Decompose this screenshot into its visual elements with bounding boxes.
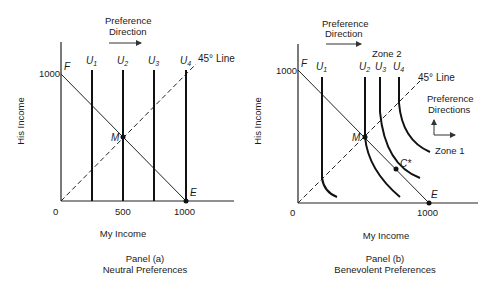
label-u3: U3 — [375, 61, 386, 73]
label-u4: U4 — [180, 55, 191, 67]
point-e — [427, 201, 432, 206]
diagram-canvas: Preference Direction U1 U2 U3 U4 45° Lin… — [0, 0, 489, 285]
point-c-star — [394, 167, 399, 172]
x-axis-label: My Income — [363, 230, 409, 241]
label-f: F — [301, 58, 308, 69]
label-u1: U1 — [316, 61, 327, 73]
y-axis-label: His Income — [252, 97, 263, 145]
label-m: M — [111, 132, 120, 143]
y-tick-1000: 1000 — [276, 65, 297, 76]
label-e: E — [431, 189, 438, 200]
pref-direction-label-2: Direction — [109, 26, 147, 37]
x-axis-label: My Income — [100, 228, 146, 239]
label-45-line: 45° Line — [198, 53, 235, 64]
label-zone-1: Zone 1 — [435, 145, 465, 156]
label-u4: U4 — [393, 61, 404, 73]
x-tick-1000: 1000 — [174, 206, 195, 217]
y-tick-1000: 1000 — [39, 68, 60, 79]
x-tick-1000: 1000 — [417, 207, 438, 218]
label-c-star: C* — [400, 158, 412, 169]
label-m: M — [352, 132, 361, 143]
pref-directions-label-2: Directions — [428, 104, 470, 115]
pref-directions-label-1: Preference — [427, 93, 473, 104]
point-e — [184, 199, 189, 204]
point-m — [121, 135, 126, 140]
panel-b: Preference Direction Zone 2 U1 U2 U3 U4 … — [252, 18, 478, 275]
label-zone-2: Zone 2 — [372, 48, 402, 59]
label-u1: U1 — [86, 55, 97, 67]
panel-a: Preference Direction U1 U2 U3 U4 45° Lin… — [15, 15, 235, 275]
label-f: F — [64, 61, 71, 72]
x-tick-0: 0 — [53, 206, 58, 217]
panel-title: Panel (b) — [366, 253, 405, 264]
pref-direction-label-1: Preference — [105, 15, 151, 26]
point-m — [363, 135, 368, 140]
curve-u1 — [322, 77, 337, 197]
x-tick-500: 500 — [115, 206, 131, 217]
panel-subtitle: Benevolent Preferences — [334, 264, 436, 275]
label-e: E — [190, 187, 197, 198]
x-tick-0: 0 — [290, 207, 295, 218]
y-axis-label: His Income — [15, 97, 26, 145]
panel-title: Panel (a) — [126, 253, 165, 264]
label-45-line: 45° Line — [418, 72, 455, 83]
label-u2: U2 — [117, 55, 128, 67]
label-u3: U3 — [148, 55, 159, 67]
panel-subtitle: Neutral Preferences — [103, 264, 188, 275]
label-u2: U2 — [359, 61, 370, 73]
curve-u4 — [399, 77, 430, 152]
line-45 — [61, 64, 196, 201]
curve-u2 — [365, 77, 400, 197]
pref-direction-label-2: Direction — [325, 28, 363, 39]
